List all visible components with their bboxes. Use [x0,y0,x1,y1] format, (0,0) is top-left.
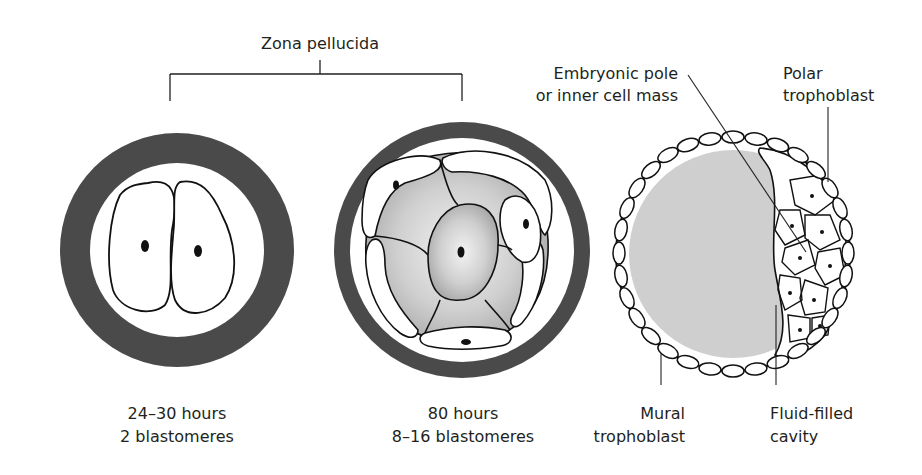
stage-two-cell-time: 24–30 hours [117,404,237,424]
stage-morula-count: 8–16 blastomeres [383,427,543,447]
zona-pellucida-label: Zona pellucida [250,34,390,54]
polar-trophoblast-label-2: trophoblast [783,86,874,106]
nucleus [461,339,471,345]
morula-embryo [334,122,590,378]
nucleus [141,240,149,252]
nucleus [194,245,202,257]
stage-morula-time: 80 hours [403,404,523,424]
stage-two-cell-count: 2 blastomeres [107,427,247,447]
nucleus [523,219,529,229]
cavity-label-2: cavity [770,427,818,447]
blastocyst [613,75,854,385]
nucleus [393,181,399,190]
embryonic-pole-label-1: Embryonic pole [520,64,678,84]
cavity-label-1: Fluid-filled [770,404,853,424]
zona-bracket [170,60,462,101]
polar-trophoblast-label-1: Polar [783,64,823,84]
embryonic-pole-label-2: or inner cell mass [500,86,678,106]
mural-trophoblast-label-1: Mural [560,404,685,424]
two-cell-embryo [60,133,294,367]
nucleus [458,247,465,258]
mural-trophoblast-label-2: trophoblast [560,427,685,447]
